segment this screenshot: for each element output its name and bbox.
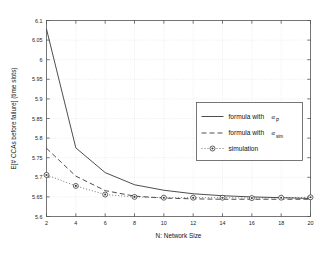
y-tick-label: 6 — [40, 57, 43, 63]
data-point-center — [192, 197, 194, 199]
line-chart: 5.65.655.75.755.85.855.95.9566.056.1 246… — [0, 0, 328, 265]
y-tick-label: 5.7 — [35, 174, 43, 180]
data-point-center — [163, 197, 165, 199]
y-tick-label: 5.9 — [35, 96, 43, 102]
legend-label-0: formula with — [229, 113, 265, 120]
data-point-center — [45, 174, 47, 176]
legend-label-1: formula with — [229, 129, 265, 136]
y-tick-label: 5.8 — [35, 135, 43, 141]
chart-plot-area: 5.65.655.75.755.85.855.95.9566.056.1 246… — [0, 0, 328, 265]
y-axis-label: E[# CCAs before failure] (time slots) — [10, 68, 18, 170]
legend-alpha-symbol-1: α — [271, 129, 275, 136]
data-point-center — [75, 185, 77, 187]
figure-canvas: 5.65.655.75.755.85.855.95.9566.056.1 246… — [0, 0, 328, 265]
data-point-center — [309, 196, 311, 198]
data-point-center — [104, 193, 106, 195]
legend-label-2: simulation — [229, 145, 259, 152]
x-tick-label: 14 — [220, 220, 226, 226]
legend-alpha-symbol-0: α — [271, 113, 275, 120]
x-tick-label: 6 — [104, 220, 107, 226]
y-tick-label: 6.05 — [32, 37, 43, 43]
x-axis-label: N: Network Size — [156, 232, 202, 239]
y-tick-label: 5.6 — [35, 214, 43, 220]
x-tick-label: 10 — [161, 220, 167, 226]
x-tick-label: 20 — [308, 220, 314, 226]
y-tick-label: 6.1 — [35, 18, 43, 24]
x-tick-label: 12 — [190, 220, 196, 226]
x-tick-label: 4 — [74, 220, 77, 226]
legend-alpha-subscript-1: sim — [276, 134, 283, 139]
data-point-center — [221, 197, 223, 199]
legend-sample-marker-center — [211, 147, 213, 149]
data-point-center — [280, 197, 282, 199]
data-point-center — [133, 196, 135, 198]
chart-legend: formula with αPformula with αsimsimulati… — [197, 103, 303, 161]
data-point-center — [251, 197, 253, 199]
x-tick-label: 8 — [133, 220, 136, 226]
y-tick-label: 5.75 — [32, 155, 43, 161]
x-tick-label: 18 — [278, 220, 284, 226]
x-tick-label: 2 — [45, 220, 48, 226]
y-tick-label: 5.95 — [32, 76, 43, 82]
legend-alpha-subscript-0: P — [276, 118, 279, 123]
y-tick-label: 5.65 — [32, 194, 43, 200]
x-tick-label: 16 — [249, 220, 255, 226]
y-tick-label: 5.85 — [32, 116, 43, 122]
